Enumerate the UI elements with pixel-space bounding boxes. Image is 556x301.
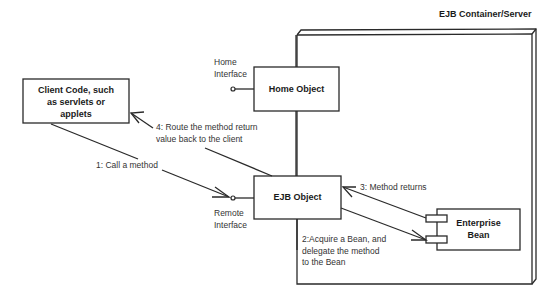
bean-label-line-2: Bean xyxy=(437,229,520,241)
remote-interface-label: Remote Interface xyxy=(214,208,247,231)
diagram-canvas xyxy=(0,0,556,301)
enterprise-bean-label: Enterprise Bean xyxy=(437,217,520,241)
bean-label-line-1: Enterprise xyxy=(437,217,520,229)
message-2-line-3: to the Bean xyxy=(302,257,386,269)
message-4-label: 4: Route the method return value back to… xyxy=(156,122,258,145)
home-object-label: Home Object xyxy=(254,83,339,95)
client-label: Client Code, such as servlets or applets xyxy=(23,84,129,120)
message-3-line-1: 3: Method returns xyxy=(360,182,427,194)
home-interface-icon[interactable] xyxy=(231,87,235,91)
ejb-object-label: EJB Object xyxy=(254,191,341,203)
message-3-label: 3: Method returns xyxy=(360,182,427,194)
message-1-line-1: 1: Call a method xyxy=(96,160,158,172)
message-1-label: 1: Call a method xyxy=(96,160,158,172)
client-label-line-1: Client Code, such xyxy=(23,84,129,96)
home-interface-label: Home Interface xyxy=(214,57,247,80)
container-label: EJB Container/Server xyxy=(439,9,532,21)
message-4-line-1: 4: Route the method return xyxy=(156,122,258,134)
client-label-line-3: applets xyxy=(23,108,129,120)
message-2-line-1: 2:Acquire a Bean, and xyxy=(302,234,386,246)
message-2-line-2: delegate the method xyxy=(302,246,386,258)
remote-interface-icon[interactable] xyxy=(231,196,235,200)
remote-interface-line-1: Remote xyxy=(214,208,247,220)
message-4-line-2: value back to the client xyxy=(156,134,258,146)
remote-interface-line-2: Interface xyxy=(214,220,247,232)
message-2-label: 2:Acquire a Bean, and delegate the metho… xyxy=(302,234,386,269)
home-interface-line-1: Home xyxy=(214,57,247,69)
home-interface-line-2: Interface xyxy=(214,69,247,81)
client-label-line-2: as servlets or xyxy=(23,96,129,108)
